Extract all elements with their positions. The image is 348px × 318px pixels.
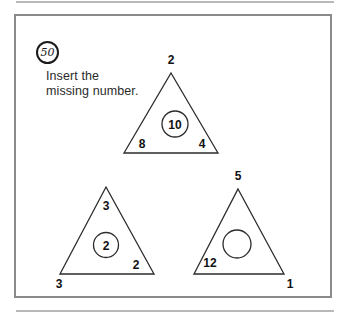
triangle-bottom-right-bottom-right-label: 1	[287, 277, 294, 291]
triangle-top-center-label: 10	[168, 118, 182, 132]
triangle-bottom-left-bottom-left-label: 3	[56, 277, 63, 291]
puzzle-diagram: 2 10 8 4 3 2 3 2 5 12 1	[16, 16, 334, 300]
triangle-bottom-right-center-circle	[223, 230, 251, 258]
question-panel: 50 Insert the missing number. 2 10 8 4 3…	[14, 14, 332, 298]
question-page: 50 Insert the missing number. 2 10 8 4 3…	[0, 0, 348, 318]
frame-edge-below	[16, 310, 334, 312]
triangle-top: 2 10 8 4	[124, 53, 218, 153]
triangle-bottom-right-apex-label: 5	[235, 169, 242, 183]
triangle-bottom-left-apex-label: 3	[103, 199, 110, 213]
triangle-top-apex-label: 2	[168, 53, 175, 67]
frame-edge-above	[16, 1, 334, 3]
triangle-bottom-left: 3 2 3 2	[56, 187, 154, 291]
triangle-bottom-right: 5 12 1	[194, 169, 294, 291]
triangle-top-bottom-left-label: 8	[139, 137, 146, 151]
triangle-bottom-left-center-label: 2	[103, 239, 110, 253]
triangle-bottom-left-bottom-right-label: 2	[133, 258, 140, 272]
triangle-bottom-right-bottom-left-label: 12	[203, 256, 217, 270]
triangle-top-bottom-right-label: 4	[199, 137, 206, 151]
